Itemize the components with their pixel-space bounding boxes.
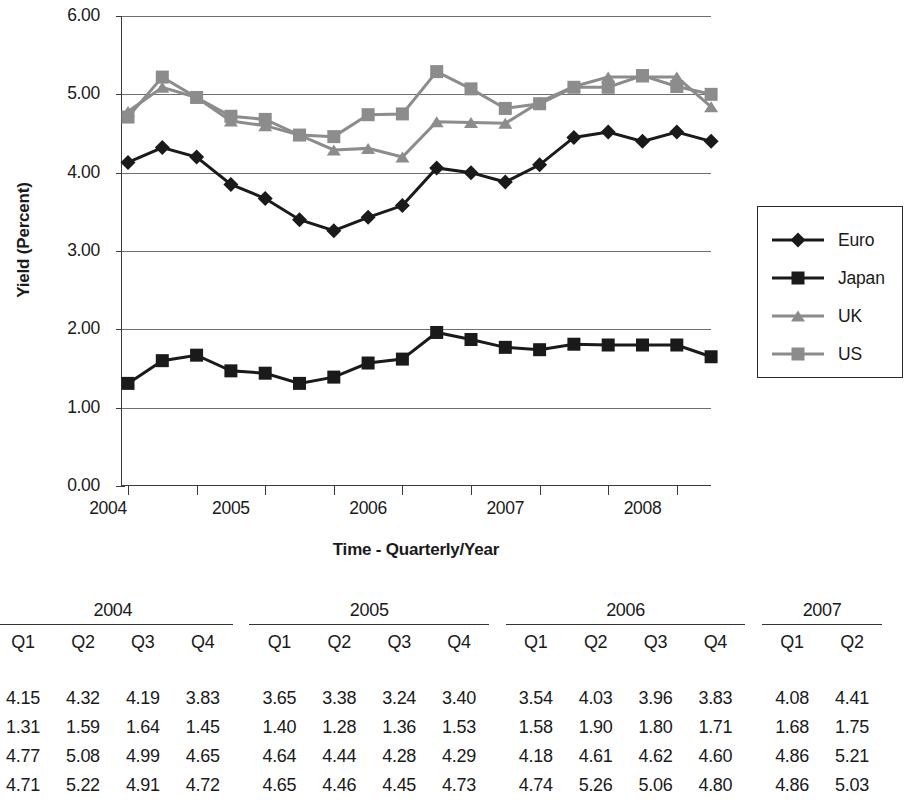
column-gap (745, 625, 762, 663)
diamond-marker (464, 165, 479, 180)
value-cell: 4.19 (113, 684, 173, 713)
y-tick-mark (116, 486, 125, 487)
square-marker (293, 377, 306, 390)
x-axis-title: Time - Quarterly/Year (121, 540, 711, 560)
column-gap (745, 684, 762, 713)
x-tick-mark (197, 486, 198, 495)
value-cell: 1.36 (369, 713, 429, 742)
value-cell: 1.40 (249, 713, 309, 742)
square-marker (602, 339, 615, 352)
value-cell: 4.32 (53, 684, 113, 713)
value-cell: 5.06 (626, 771, 686, 800)
value-cell: 5.22 (53, 771, 113, 800)
chart-legend: EuroJapanUKUS (757, 206, 903, 378)
y-tick-label: 1.00 (36, 397, 100, 418)
diamond-marker (635, 134, 650, 149)
square-marker (259, 367, 272, 380)
series-japan (122, 326, 718, 390)
square-marker (396, 353, 409, 366)
value-cell: 1.64 (113, 713, 173, 742)
legend-item-uk[interactable]: UK (758, 297, 902, 335)
legend-item-euro[interactable]: Euro (758, 221, 902, 259)
square-marker (792, 272, 805, 285)
value-cell: 3.83 (173, 684, 233, 713)
diamond-marker (770, 229, 826, 251)
legend-label: US (838, 344, 862, 365)
value-cell: 3.96 (626, 684, 686, 713)
value-cell: 3.83 (685, 684, 745, 713)
legend-item-us[interactable]: US (758, 335, 902, 373)
x-tick-mark (540, 486, 541, 495)
value-cell: 5.03 (822, 771, 882, 800)
square-marker (465, 333, 478, 346)
triangle-marker (770, 305, 826, 327)
value-cell: 4.46 (309, 771, 369, 800)
square-marker (362, 108, 375, 121)
legend-label: Japan (838, 268, 885, 289)
square-marker (636, 69, 649, 82)
quarter-header: Q4 (429, 625, 489, 663)
column-gap (745, 742, 762, 771)
value-cell: 1.71 (685, 713, 745, 742)
value-cell: 4.80 (685, 771, 745, 800)
square-marker (327, 130, 340, 143)
spacer (0, 662, 882, 684)
table-year-header-row: 2004200520062007 (0, 596, 882, 625)
x-tick-mark (471, 486, 472, 495)
square-marker (224, 364, 237, 377)
table-spacer-row (0, 662, 882, 684)
quarter-header: Q2 (566, 625, 626, 663)
value-cell: 3.24 (369, 684, 429, 713)
square-marker (499, 102, 512, 115)
year-group-header: 2007 (762, 596, 882, 625)
data-table-area: 2004200520062007Q1Q2Q3Q4Q1Q2Q3Q4Q1Q2Q3Q4… (0, 596, 924, 803)
diamond-marker (498, 175, 513, 190)
value-cell: 4.86 (762, 742, 822, 771)
value-cell: 4.44 (309, 742, 369, 771)
square-marker (602, 81, 615, 94)
value-cell: 4.15 (0, 684, 53, 713)
year-group-header: 2006 (506, 596, 746, 625)
column-gap (489, 625, 506, 663)
table-row: 4.715.224.914.724.654.464.454.734.745.26… (0, 771, 882, 800)
square-marker (430, 326, 443, 339)
square-marker (465, 82, 478, 95)
square-marker (670, 339, 683, 352)
value-cell: 4.73 (429, 771, 489, 800)
square-marker (670, 80, 683, 93)
quarter-header: Q1 (249, 625, 309, 663)
yield-chart: Yield (Percent) 0.001.002.003.004.005.00… (0, 0, 924, 585)
value-cell: 4.45 (369, 771, 429, 800)
quarter-header: Q4 (173, 625, 233, 663)
value-cell: 1.75 (822, 713, 882, 742)
value-cell: 4.29 (429, 742, 489, 771)
square-marker (190, 91, 203, 104)
value-cell: 4.72 (173, 771, 233, 800)
square-marker (122, 377, 135, 390)
square-marker (567, 338, 580, 351)
x-tick-mark (334, 486, 335, 495)
legend-item-japan[interactable]: Japan (758, 259, 902, 297)
plot-area (121, 16, 711, 486)
square-marker (224, 110, 237, 123)
column-gap (489, 684, 506, 713)
value-cell: 4.18 (506, 742, 566, 771)
square-marker (396, 107, 409, 120)
table-row: 1.311.591.641.451.401.281.361.531.581.90… (0, 713, 882, 742)
y-axis-title: Yield (Percent) (14, 130, 34, 350)
column-gap (233, 596, 250, 625)
diamond-marker (292, 212, 307, 227)
x-year-label: 2005 (201, 498, 261, 519)
y-tick-label: 3.00 (36, 240, 100, 261)
value-cell: 1.68 (762, 713, 822, 742)
square-marker (705, 350, 718, 363)
table-row: 4.775.084.994.654.644.444.284.294.184.61… (0, 742, 882, 771)
column-gap (745, 713, 762, 742)
quarter-header: Q1 (0, 625, 53, 663)
square-marker (327, 371, 340, 384)
series-line (128, 77, 711, 157)
column-gap (233, 742, 250, 771)
value-cell: 4.65 (249, 771, 309, 800)
square-marker (770, 343, 826, 365)
quarter-header: Q2 (822, 625, 882, 663)
